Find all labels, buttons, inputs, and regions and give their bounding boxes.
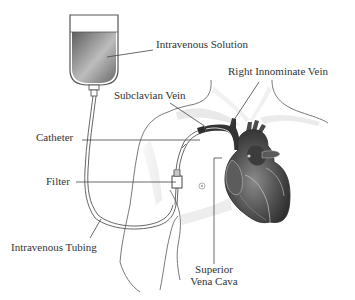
label-superior-vena-cava-line2: Vena Cava — [186, 275, 242, 287]
label-intravenous-tubing: Intravenous Tubing — [11, 241, 97, 253]
iv-tubing — [85, 96, 176, 229]
label-catheter: Catheter — [36, 131, 73, 143]
nipple-mark — [199, 183, 205, 189]
body-shading — [142, 86, 320, 225]
label-filter: Filter — [46, 175, 70, 187]
torso-outline — [120, 80, 328, 292]
iv-bag — [70, 15, 118, 96]
catheter-line — [176, 130, 201, 170]
iv-catheter-diagram: Intravenous Solution Subclavian Vein Rig… — [0, 0, 355, 300]
label-subclavian-vein: Subclavian Vein — [114, 89, 186, 101]
leader-intravenous-tubing — [90, 219, 101, 238]
label-superior-vena-cava: Superior Vena Cava — [186, 263, 242, 287]
label-right-innominate-vein: Right Innominate Vein — [228, 65, 328, 77]
filter-device — [172, 170, 182, 205]
label-intravenous-solution: Intravenous Solution — [156, 38, 248, 50]
label-superior-vena-cava-line1: Superior — [186, 263, 242, 275]
veins — [204, 118, 240, 152]
